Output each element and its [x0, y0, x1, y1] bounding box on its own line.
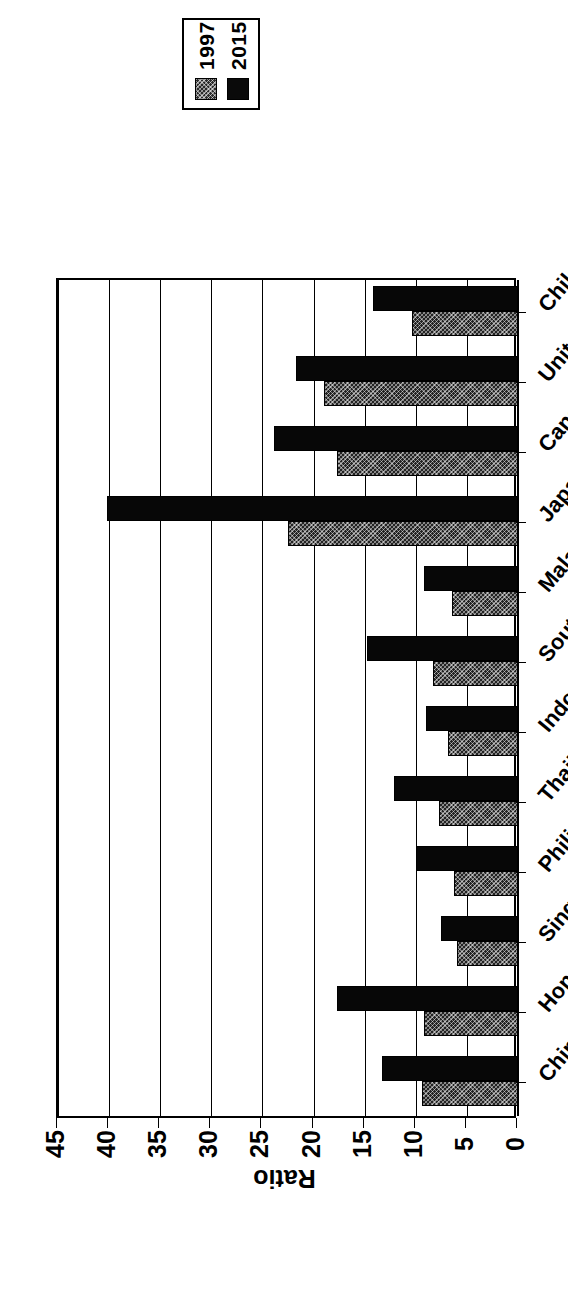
- y-tick-label: 0: [501, 1137, 530, 1151]
- y-tick-mark: [209, 1118, 210, 1128]
- legend-label-2015: 2015: [228, 21, 249, 70]
- y-tick-label: 30: [194, 1130, 223, 1158]
- y-tick-label: 5: [450, 1137, 479, 1151]
- gridline: [160, 280, 161, 1116]
- x-tick-label: Japan: [533, 462, 568, 527]
- bar-1997-philippines: [454, 871, 518, 896]
- bar-1997-thailand: [439, 801, 518, 826]
- chart-figure: 1997 2015 051015202530354045ChinaHong Ko…: [0, 0, 568, 1295]
- bar-2015-thailand: [394, 776, 518, 801]
- y-tick-mark: [465, 1118, 466, 1128]
- gridline: [314, 280, 315, 1116]
- y-axis-title: Ratio: [253, 1164, 316, 1193]
- bar-2015-chile: [373, 286, 518, 311]
- gridline: [109, 280, 110, 1116]
- legend-label-1997: 1997: [196, 21, 217, 70]
- plot-area: [56, 278, 516, 1118]
- bar-2015-hong-kong: [337, 986, 518, 1011]
- x-tick-mark: [516, 452, 526, 453]
- y-tick-mark: [107, 1118, 108, 1128]
- legend-entry-1997: 1997: [190, 28, 222, 100]
- bar-2015-south-korea: [367, 636, 518, 661]
- y-tick-mark: [260, 1118, 261, 1128]
- x-tick-mark: [516, 592, 526, 593]
- x-tick-label: Chile: [533, 259, 568, 317]
- legend-swatch-2015-icon: [227, 78, 249, 100]
- x-tick-mark: [516, 942, 526, 943]
- bar-1997-singapore: [457, 941, 518, 966]
- x-tick-mark: [516, 802, 526, 803]
- chart-legend: 1997 2015: [182, 18, 260, 110]
- bar-2015-philippines: [416, 846, 518, 871]
- x-tick-mark: [516, 312, 526, 313]
- bar-1997-indonesia: [448, 731, 518, 756]
- bar-2015-japan: [107, 496, 518, 521]
- x-tick-mark: [516, 1082, 526, 1083]
- x-tick-mark: [516, 732, 526, 733]
- legend-entry-2015: 2015: [222, 28, 254, 100]
- bar-2015-canada: [274, 426, 518, 451]
- bar-2015-united-states: [296, 356, 518, 381]
- x-tick-label: Canada: [533, 380, 568, 458]
- y-tick-mark: [158, 1118, 159, 1128]
- x-tick-mark: [516, 1012, 526, 1013]
- y-tick-label: 40: [92, 1130, 121, 1158]
- y-tick-mark: [414, 1118, 415, 1128]
- gridline: [262, 280, 263, 1116]
- bar-1997-malaysia: [452, 591, 518, 616]
- bar-1997-hong-kong: [424, 1011, 518, 1036]
- x-tick-mark: [516, 872, 526, 873]
- bar-2015-malaysia: [424, 566, 518, 591]
- x-tick-label: China: [533, 1024, 568, 1088]
- y-tick-mark: [363, 1118, 364, 1128]
- y-tick-mark: [56, 1118, 57, 1128]
- y-tick-label: 15: [348, 1130, 377, 1158]
- y-tick-label: 25: [245, 1130, 274, 1158]
- bar-1997-united-states: [324, 381, 518, 406]
- gridline: [58, 280, 59, 1116]
- y-tick-label: 10: [399, 1130, 428, 1158]
- bar-1997-south-korea: [433, 661, 518, 686]
- bar-1997-canada: [337, 451, 518, 476]
- y-tick-label: 35: [143, 1130, 172, 1158]
- x-tick-mark: [516, 662, 526, 663]
- bar-1997-japan: [288, 521, 518, 546]
- x-tick-mark: [516, 382, 526, 383]
- chart-canvas: 1997 2015 051015202530354045ChinaHong Ko…: [0, 0, 568, 1295]
- y-tick-mark: [516, 1118, 517, 1128]
- bar-1997-china: [422, 1081, 518, 1106]
- legend-swatch-1997-icon: [195, 78, 217, 100]
- bar-2015-indonesia: [426, 706, 518, 731]
- bar-2015-china: [382, 1056, 518, 1081]
- y-tick-label: 20: [297, 1130, 326, 1158]
- x-tick-mark: [516, 522, 526, 523]
- bar-2015-singapore: [441, 916, 518, 941]
- bar-1997-chile: [412, 311, 518, 336]
- y-tick-mark: [312, 1118, 313, 1128]
- y-tick-label: 45: [41, 1130, 70, 1158]
- gridline: [211, 280, 212, 1116]
